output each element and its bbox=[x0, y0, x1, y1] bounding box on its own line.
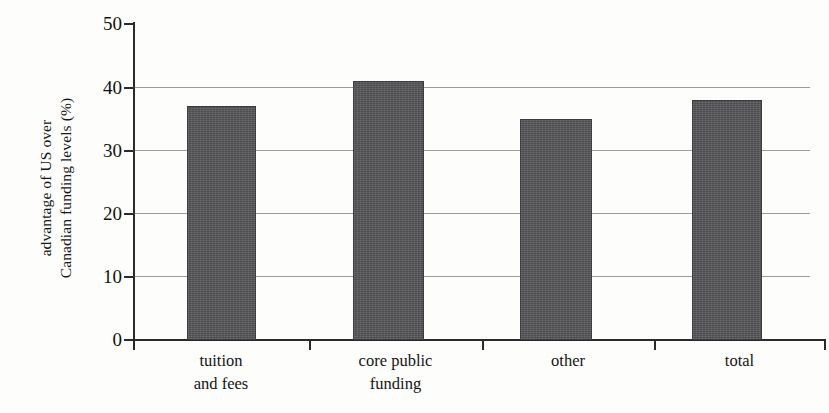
bar-tuition-and-fees bbox=[187, 106, 256, 340]
x-category-label-tuition-and-fees: tuition and fees bbox=[133, 349, 309, 395]
y-tick-label-10: 10 bbox=[82, 267, 122, 286]
y-tick-label-30: 30 bbox=[82, 141, 122, 160]
y-axis-label-line-1: advantage of US over bbox=[36, 38, 56, 338]
x-category-line-1: core public bbox=[309, 349, 482, 372]
x-category-line-1: total bbox=[654, 349, 825, 372]
x-category-line-2: and fees bbox=[133, 372, 309, 395]
bar-chart-figure: advantage of US over Canadian funding le… bbox=[0, 0, 829, 413]
y-axis-label: advantage of US over Canadian funding le… bbox=[36, 38, 76, 338]
x-category-line-1: other bbox=[482, 349, 654, 372]
x-category-line-2: funding bbox=[309, 372, 482, 395]
y-tick-label-50: 50 bbox=[82, 14, 122, 33]
x-category-label-core-public-funding: core public funding bbox=[309, 349, 482, 395]
bar-other bbox=[520, 119, 592, 340]
plot-area bbox=[133, 24, 810, 340]
y-axis-label-line-2: Canadian funding levels (%) bbox=[56, 38, 76, 338]
y-tick-label-20: 20 bbox=[82, 204, 122, 223]
gridline-40 bbox=[133, 87, 810, 88]
y-tick-label-0: 0 bbox=[82, 330, 122, 349]
y-tick-label-40: 40 bbox=[82, 78, 122, 97]
x-category-line-1: tuition bbox=[133, 349, 309, 372]
bar-core-public-funding bbox=[353, 81, 424, 340]
y-axis-tick-labels: 50 40 30 20 10 0 bbox=[78, 0, 122, 413]
x-category-label-total: total bbox=[654, 349, 825, 372]
bar-total bbox=[692, 100, 762, 340]
x-category-label-other: other bbox=[482, 349, 654, 372]
